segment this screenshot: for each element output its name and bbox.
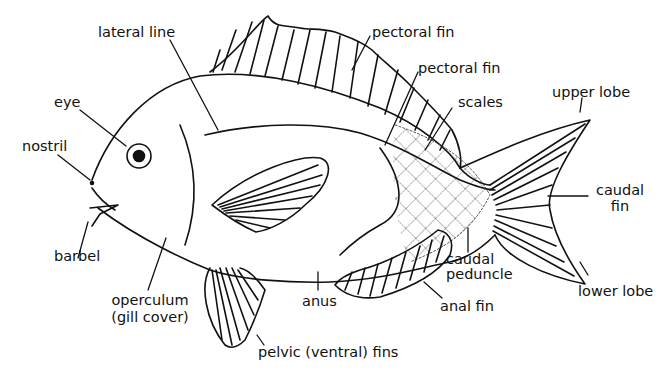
label-caudal-fin-line2: fin — [590, 198, 650, 214]
label-barbel: barbel — [54, 248, 100, 265]
label-caudal-peduncle-line2: peduncle — [446, 267, 526, 282]
pelvic-fin-shape — [205, 268, 265, 347]
label-upper-lobe: upper lobe — [552, 84, 630, 101]
label-pectoral-fin-lower: pectoral fin — [418, 60, 500, 77]
label-pelvic-fins: pelvic (ventral) fins — [258, 344, 398, 361]
label-lower-lobe: lower lobe — [578, 283, 653, 300]
label-anus: anus — [302, 293, 337, 310]
label-caudal-peduncle: caudal peduncle — [446, 252, 526, 282]
pectoral-fin-shape — [212, 158, 328, 232]
label-operculum-line1: operculum — [100, 292, 200, 309]
label-eye: eye — [54, 94, 80, 111]
label-caudal-fin-line1: caudal — [590, 182, 650, 198]
label-caudal-peduncle-line1: caudal — [446, 252, 526, 267]
label-lateral-line: lateral line — [98, 24, 175, 41]
label-operculum: operculum (gill cover) — [100, 292, 200, 326]
label-anal-fin: anal fin — [440, 298, 494, 315]
eye-icon — [127, 144, 151, 168]
label-pectoral-fin-upper: pectoral fin — [372, 24, 454, 41]
label-caudal-fin: caudal fin — [590, 182, 650, 214]
label-nostril: nostril — [22, 138, 67, 155]
label-scales: scales — [458, 94, 503, 111]
label-operculum-line2: (gill cover) — [100, 309, 200, 326]
fish-anatomy-diagram: lateral line eye nostril barbel operculu… — [0, 0, 670, 381]
nostril-dot — [91, 182, 94, 185]
